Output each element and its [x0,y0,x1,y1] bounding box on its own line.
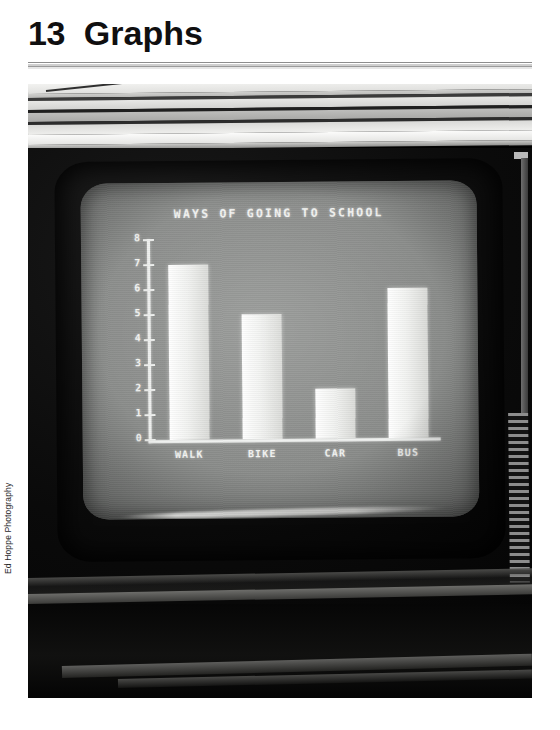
y-axis-tick-label: 6 [134,283,140,293]
y-axis-tick: 4 [144,339,155,341]
y-axis-tick-label: 1 [135,408,141,418]
chart-bar [315,388,355,438]
chart-bar [168,265,210,440]
crt-screen: WAYS OF GOING TO SCHOOL 012345678 WALKBI… [80,180,479,519]
chapter-number: 13 [28,14,65,53]
photograph-television: WAYS OF GOING TO SCHOOL 012345678 WALKBI… [28,84,532,698]
television-cabinet: WAYS OF GOING TO SCHOOL 012345678 WALKBI… [28,148,532,698]
photo-credit: Ed Hoppe Photography [3,483,13,574]
y-axis-tick-label: 7 [134,258,140,268]
chart-bars [113,237,443,240]
bar-chart: WAYS OF GOING TO SCHOOL 012345678 WALKBI… [80,180,479,519]
y-axis-tick-label: 5 [135,308,141,318]
y-axis-ticks: 012345678 [113,237,443,240]
y-axis-tick-mark [144,339,155,341]
y-axis-tick-mark [144,414,155,416]
chart-plot-area: 012345678 WALKBIKECARBUS [113,237,445,488]
header-rule-divider [28,62,532,69]
x-axis-label: WALK [160,449,218,461]
y-axis-tick: 3 [144,364,155,366]
chart-bar [387,288,428,438]
y-axis-tick-mark [144,314,155,316]
y-axis-tick-label: 2 [135,383,141,393]
grille-post [521,158,528,414]
y-axis-tick-mark [143,289,154,291]
y-axis-tick-mark [143,239,154,241]
chapter-title: Graphs [84,14,203,53]
x-axis-label: BUS [379,447,437,459]
y-axis-tick-label: 3 [135,358,141,368]
speaker-grille [508,413,530,583]
chart-bar [241,314,282,439]
page-header: 13 Graphs [0,0,560,72]
y-axis-tick: 7 [143,264,154,266]
x-axis-category-labels: WALKBIKECARBUS [113,237,443,240]
y-axis-tick-label: 4 [135,333,141,343]
y-axis-tick: 8 [143,239,154,241]
y-axis-tick: 1 [144,414,155,416]
y-axis-tick-label: 8 [134,233,140,243]
x-axis-label: CAR [306,447,364,459]
y-axis-tick-label: 0 [136,433,142,443]
y-axis-tick: 6 [143,289,154,291]
x-axis-label: BIKE [233,448,291,460]
y-axis-tick-mark [145,439,156,441]
crt-bezel: WAYS OF GOING TO SCHOOL 012345678 WALKBI… [54,158,505,562]
y-axis-tick: 5 [144,314,155,316]
y-axis-tick: 0 [145,439,156,441]
chart-title: WAYS OF GOING TO SCHOOL [81,204,477,221]
y-axis-tick-mark [144,389,155,391]
y-axis-tick: 2 [144,389,155,391]
page-title: 13 Graphs [28,14,203,53]
rule-line-4 [28,67,532,69]
rule-line-1 [28,62,532,63]
y-axis-tick-mark [143,264,154,266]
y-axis-tick-mark [144,364,155,366]
